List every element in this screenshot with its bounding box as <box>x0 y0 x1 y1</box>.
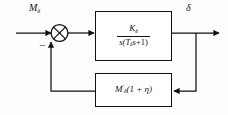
input-signal-label: Mδ <box>29 3 40 14</box>
transfer-function-numerator: Kδ <box>116 24 151 35</box>
summing-junction <box>51 25 68 42</box>
feedback-tap-line <box>174 33 196 91</box>
output-label-base: δ <box>186 2 191 13</box>
input-label-subscript: δ <box>37 7 40 14</box>
forward-transfer-function: Kδ s(Tδs+1) <box>116 24 151 47</box>
minus-sign-label: − <box>39 39 45 51</box>
transfer-function-denominator: s(Tδs+1) <box>116 37 151 48</box>
feedback-path-block: M′δ(1 + η) <box>95 73 172 107</box>
forward-path-block: Kδ s(Tδs+1) <box>95 11 172 61</box>
block-diagram: Mδ δ − Kδ s(Tδs+1) M′δ(1 + η) <box>0 0 228 115</box>
feedback-return-line <box>51 42 95 91</box>
feedback-gain-expression: M′δ(1 + η) <box>115 84 152 95</box>
feedback-factor: (1 + η) <box>126 84 152 94</box>
output-signal-label: δ <box>186 3 191 14</box>
